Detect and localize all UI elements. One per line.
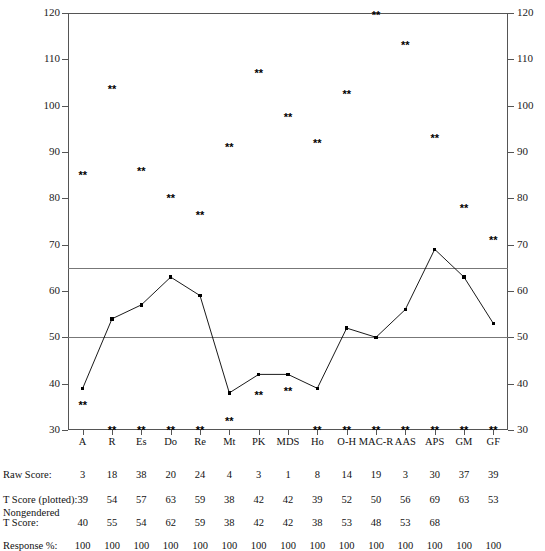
upper-marker-gf: ** (487, 238, 499, 242)
upper-marker-do: ** (165, 196, 177, 200)
data-point-mac-r (374, 336, 378, 340)
upper-marker-mt: ** (223, 145, 235, 149)
lower-marker-mac-r: ** (370, 428, 382, 432)
lower-marker-re: ** (194, 428, 206, 432)
data-point-es (140, 303, 144, 307)
data-point-re (198, 294, 202, 298)
lower-marker-gf: ** (487, 428, 499, 432)
table-cell-r0-gf: 39 (473, 469, 513, 480)
upper-marker-ho: ** (311, 141, 323, 145)
upper-marker-gm: ** (458, 206, 470, 210)
lower-marker-o-h: ** (341, 428, 353, 432)
upper-marker-mds: ** (282, 115, 294, 119)
data-point-aas (404, 308, 408, 312)
upper-marker-es: ** (135, 169, 147, 173)
data-point-aps (433, 248, 437, 252)
row-label-0: Raw Score: (3, 469, 52, 480)
lower-marker-gm: ** (458, 428, 470, 432)
data-point-mt (228, 391, 232, 395)
upper-marker-pk: ** (253, 71, 265, 75)
upper-marker-a: ** (77, 173, 89, 177)
lower-marker-mt: ** (223, 419, 235, 423)
data-point-ho (316, 387, 320, 391)
data-point-mds (286, 373, 290, 377)
lower-marker-mds: ** (282, 389, 294, 393)
upper-marker-o-h: ** (341, 92, 353, 96)
upper-marker-mac-r: ** (370, 13, 382, 17)
upper-marker-re: ** (194, 213, 206, 217)
table-cell-r2-aps: 68 (415, 517, 455, 528)
table-cell-r1-gf: 53 (473, 494, 513, 505)
table-cell-r3-gf: 100 (473, 540, 513, 551)
lower-marker-r: ** (106, 428, 118, 432)
lower-marker-es: ** (135, 428, 147, 432)
data-point-pk (257, 373, 261, 377)
lower-marker-ho: ** (311, 428, 323, 432)
data-point-do (169, 275, 173, 279)
data-point-r (110, 317, 114, 321)
data-point-gm (462, 275, 466, 279)
lower-marker-a: ** (77, 403, 89, 407)
data-point-o-h (345, 326, 349, 330)
lower-marker-pk: ** (253, 393, 265, 397)
lower-marker-do: ** (165, 428, 177, 432)
row-label-3: Response %: (3, 540, 58, 551)
lower-marker-aps: ** (429, 428, 441, 432)
lower-marker-aas: ** (399, 428, 411, 432)
upper-marker-r: ** (106, 87, 118, 91)
data-point-gf (492, 322, 496, 326)
upper-marker-aps: ** (429, 136, 441, 140)
data-point-a (81, 387, 85, 391)
row-label-nongendered-line2: T Score: (3, 517, 39, 528)
upper-marker-aas: ** (399, 43, 411, 47)
